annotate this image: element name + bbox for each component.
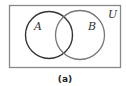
set-a-circle xyxy=(26,12,73,59)
figure-caption: (a) xyxy=(58,74,72,84)
venn-diagram: A B U (a) xyxy=(0,0,126,86)
universe-label: U xyxy=(108,8,118,21)
set-b-label: B xyxy=(87,20,96,33)
set-b-circle xyxy=(56,11,105,60)
set-a-label: A xyxy=(33,20,42,33)
